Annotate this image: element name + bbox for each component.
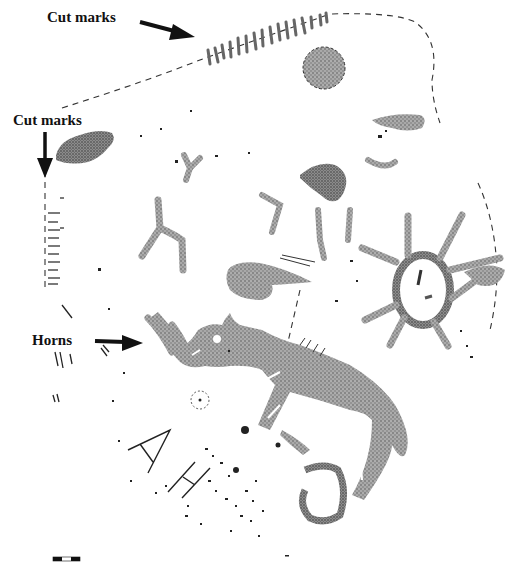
engraved-letters <box>128 430 210 498</box>
cut-marks-left-group <box>48 198 64 284</box>
arrow-cut-marks-top <box>140 22 195 40</box>
stippled-blob-right <box>372 114 425 130</box>
stippled-ring <box>302 466 343 521</box>
arrow-cut-marks-left <box>37 132 53 178</box>
engraved-letter-h <box>168 462 210 498</box>
label-cut-marks-top: Cut marks <box>47 10 116 25</box>
sun-figure <box>362 215 505 346</box>
small-dot <box>199 399 202 402</box>
engraved-ticks-left <box>53 305 109 402</box>
stick-figure-left <box>142 200 183 270</box>
rhino-eye <box>213 335 221 343</box>
engraved-lines-mid <box>280 255 315 266</box>
label-cut-marks-left: Cut marks <box>13 113 82 128</box>
stippled-blob-left <box>56 131 114 164</box>
stippled-disc <box>303 47 345 89</box>
rhino-leg <box>280 430 310 455</box>
scattered-marks <box>98 110 473 557</box>
engraved-letter-a <box>128 430 170 473</box>
scale-bar <box>53 557 80 561</box>
label-horns: Horns <box>32 333 72 348</box>
stick-figure-top <box>184 155 200 180</box>
rock-art-tracing <box>0 0 523 571</box>
stippled-figure-center <box>300 164 346 202</box>
